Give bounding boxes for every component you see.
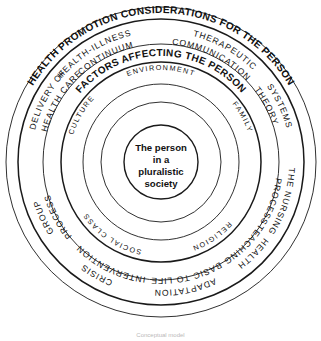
concentric-diagram: HEALTH PROMOTION CONSIDERATIONS FOR THE … (0, 0, 321, 341)
center-text-line-3: pluralistic (138, 166, 184, 177)
figure-caption: Conceptual model (0, 330, 321, 341)
middle-item-social-class: SOCIAL CLASS (81, 211, 143, 257)
middle-item-culture: CULTURE (66, 93, 96, 135)
center-text-line-4: society (144, 178, 178, 189)
figure-canvas: HEALTH PROMOTION CONSIDERATIONS FOR THE … (0, 0, 321, 341)
center-text-line-1: The person (135, 142, 187, 153)
center-text-line-2: in a (153, 154, 170, 165)
